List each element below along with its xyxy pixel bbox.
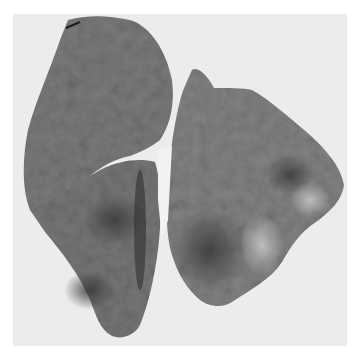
specimen-photo: [0, 0, 356, 354]
photo-frame: [0, 0, 356, 354]
